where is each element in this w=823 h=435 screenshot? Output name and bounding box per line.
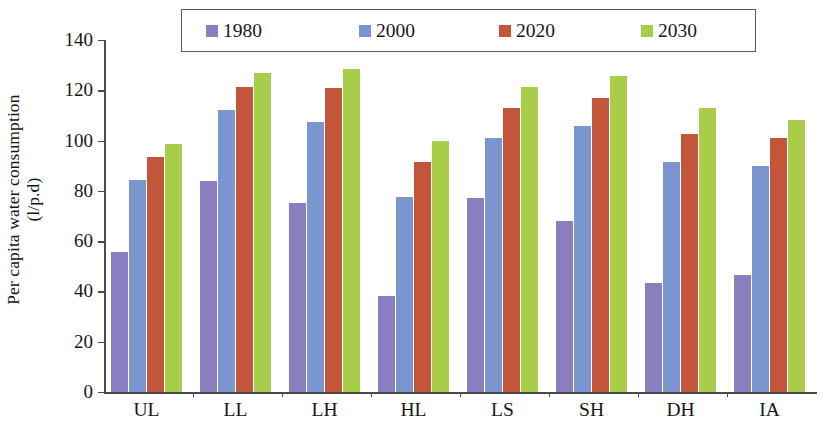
bar-ul-1980[interactable] bbox=[111, 252, 128, 392]
bar-ia-2020[interactable] bbox=[770, 138, 787, 392]
x-axis-tick-mark bbox=[282, 392, 283, 397]
x-axis-tick-mark bbox=[727, 392, 728, 397]
legend-swatch-icon bbox=[499, 25, 511, 37]
legend-swatch-icon bbox=[359, 25, 371, 37]
x-axis-label-ls: LS bbox=[491, 399, 514, 421]
bar-group bbox=[556, 40, 627, 392]
bar-ul-2000[interactable] bbox=[129, 180, 146, 392]
bar-ll-1980[interactable] bbox=[200, 181, 217, 392]
y-axis-tick-label: 80 bbox=[74, 180, 93, 202]
bar-ls-1980[interactable] bbox=[467, 198, 484, 392]
x-axis-label-ia: IA bbox=[759, 399, 780, 421]
bar-ll-2000[interactable] bbox=[218, 110, 235, 392]
y-axis-title-line2: (l/p.d) bbox=[23, 95, 43, 305]
y-axis-tick-mark bbox=[98, 90, 105, 91]
bar-ul-2030[interactable] bbox=[165, 144, 182, 392]
bar-ll-2020[interactable] bbox=[236, 87, 253, 392]
bar-ia-2030[interactable] bbox=[788, 120, 805, 392]
legend-label: 1980 bbox=[223, 20, 262, 42]
legend-item-2000[interactable]: 2000 bbox=[359, 20, 415, 42]
legend-item-2020[interactable]: 2020 bbox=[499, 20, 555, 42]
y-axis-tick-label: 120 bbox=[65, 79, 94, 101]
x-axis-label-hl: HL bbox=[401, 399, 427, 421]
plot-area: 020406080100120140 bbox=[104, 40, 816, 392]
legend-swatch-icon bbox=[641, 25, 653, 37]
bar-ll-2030[interactable] bbox=[254, 73, 271, 392]
y-axis-tick-label: 60 bbox=[74, 230, 93, 252]
x-axis-label-dh: DH bbox=[666, 399, 694, 421]
x-axis-tick-mark bbox=[193, 392, 194, 397]
y-axis-title-line1: Per capita water consumption bbox=[2, 95, 22, 305]
bar-sh-2000[interactable] bbox=[574, 126, 591, 393]
bar-ls-2000[interactable] bbox=[485, 138, 502, 392]
y-axis-tick-label: 0 bbox=[84, 381, 94, 403]
y-axis-tick-label: 40 bbox=[74, 280, 93, 302]
y-axis-tick-mark bbox=[98, 392, 105, 393]
y-axis-tick-mark bbox=[98, 141, 105, 142]
legend-item-2030[interactable]: 2030 bbox=[641, 20, 697, 42]
legend-item-1980[interactable]: 1980 bbox=[206, 20, 262, 42]
y-axis-tick-mark bbox=[98, 291, 105, 292]
y-axis-tick-label: 20 bbox=[74, 331, 93, 353]
x-axis-label-ul: UL bbox=[134, 399, 160, 421]
y-axis-tick-mark bbox=[98, 342, 105, 343]
legend-label: 2020 bbox=[516, 20, 555, 42]
y-axis-tick-label: 100 bbox=[65, 130, 94, 152]
x-axis-tick-mark bbox=[460, 392, 461, 397]
bar-dh-2030[interactable] bbox=[699, 108, 716, 392]
x-axis-label-ll: LL bbox=[224, 399, 248, 421]
bar-lh-1980[interactable] bbox=[289, 203, 306, 392]
legend-label: 2000 bbox=[376, 20, 415, 42]
legend-label: 2030 bbox=[658, 20, 697, 42]
bar-ia-2000[interactable] bbox=[752, 166, 769, 392]
y-axis-tick-mark bbox=[98, 191, 105, 192]
chart-legend: 1980200020202030 bbox=[181, 9, 756, 52]
bar-sh-1980[interactable] bbox=[556, 221, 573, 392]
x-axis-tick-mark bbox=[638, 392, 639, 397]
bar-hl-2020[interactable] bbox=[414, 162, 431, 392]
bar-ls-2020[interactable] bbox=[503, 108, 520, 392]
x-axis-label-sh: SH bbox=[579, 399, 604, 421]
bar-hl-1980[interactable] bbox=[378, 296, 395, 392]
bar-group bbox=[734, 40, 805, 392]
bar-group bbox=[378, 40, 449, 392]
bar-ia-1980[interactable] bbox=[734, 275, 751, 392]
bar-lh-2020[interactable] bbox=[325, 88, 342, 392]
bar-hl-2000[interactable] bbox=[396, 197, 413, 392]
bar-group bbox=[289, 40, 360, 392]
bar-group bbox=[467, 40, 538, 392]
y-axis-title: Per capita water consumption (l/p.d) bbox=[0, 0, 46, 400]
bar-group bbox=[111, 40, 182, 392]
y-axis-tick-mark bbox=[98, 241, 105, 242]
bar-lh-2000[interactable] bbox=[307, 122, 324, 392]
x-axis-tick-mark bbox=[371, 392, 372, 397]
bar-lh-2030[interactable] bbox=[343, 69, 360, 392]
bar-sh-2030[interactable] bbox=[610, 76, 627, 392]
bar-chart-figure: Per capita water consumption (l/p.d) 020… bbox=[0, 0, 823, 435]
bar-ul-2020[interactable] bbox=[147, 157, 164, 392]
bar-group bbox=[200, 40, 271, 392]
bar-dh-1980[interactable] bbox=[645, 283, 662, 392]
x-axis-label-lh: LH bbox=[312, 399, 338, 421]
bar-hl-2030[interactable] bbox=[432, 141, 449, 392]
bar-sh-2020[interactable] bbox=[592, 98, 609, 392]
y-axis-tick-mark bbox=[98, 40, 105, 41]
x-axis-tick-mark bbox=[549, 392, 550, 397]
bar-group bbox=[645, 40, 716, 392]
y-axis-tick-label: 140 bbox=[65, 29, 94, 51]
bar-ls-2030[interactable] bbox=[521, 87, 538, 392]
legend-swatch-icon bbox=[206, 25, 218, 37]
bar-dh-2020[interactable] bbox=[681, 134, 698, 392]
bar-dh-2000[interactable] bbox=[663, 162, 680, 392]
